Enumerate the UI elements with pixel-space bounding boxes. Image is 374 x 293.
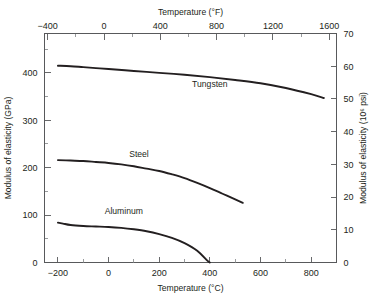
top-tick-label: 400 xyxy=(153,21,168,31)
left-axis-title: Modulus of elasticity (GPa) xyxy=(3,97,13,200)
left-tick-label: 100 xyxy=(22,210,37,220)
right-tick-label: 30 xyxy=(344,160,354,170)
top-tick-label: 800 xyxy=(209,21,224,31)
series-label-steel: Steel xyxy=(129,149,149,159)
modulus-vs-temperature-chart: −2000200400600800−4000400800120016000100… xyxy=(0,0,374,293)
top-tick-label: 1200 xyxy=(263,21,283,31)
series-label-aluminum: Aluminum xyxy=(105,206,143,216)
left-tick-label: 200 xyxy=(22,163,37,173)
top-axis-title: Temperature (°F) xyxy=(158,7,223,17)
bottom-axis-title: Temperature (°C) xyxy=(158,283,224,293)
right-tick-label: 40 xyxy=(344,127,354,137)
right-tick-label: 10 xyxy=(344,225,354,235)
axis-tick-labels: −2000200400600800−4000400800120016000100… xyxy=(22,21,353,278)
left-tick-label: 400 xyxy=(22,68,37,78)
top-tick-label: 1600 xyxy=(319,21,339,31)
left-tick-label: 0 xyxy=(32,258,37,268)
series-label-tungsten: Tungsten xyxy=(192,79,228,89)
bottom-tick-label: 600 xyxy=(253,268,268,278)
right-tick-label: 0 xyxy=(344,258,349,268)
series-labels: TungstenSteelAluminum xyxy=(105,79,228,216)
curve-tungsten xyxy=(58,66,324,98)
right-axis-title: Modulus of elasticity (10⁶ psi) xyxy=(358,92,368,204)
data-curves xyxy=(58,66,324,263)
top-tick-label: −400 xyxy=(38,21,58,31)
bottom-tick-label: 800 xyxy=(304,268,319,278)
right-tick-label: 50 xyxy=(344,94,354,104)
left-tick-label: 300 xyxy=(22,116,37,126)
top-tick-label: 0 xyxy=(102,21,107,31)
curve-aluminum xyxy=(58,223,210,263)
bottom-tick-label: −200 xyxy=(48,268,68,278)
bottom-tick-label: 0 xyxy=(106,268,111,278)
right-tick-label: 60 xyxy=(344,62,354,72)
bottom-tick-label: 400 xyxy=(202,268,217,278)
curve-steel xyxy=(58,160,243,203)
right-tick-label: 20 xyxy=(344,192,354,202)
bottom-tick-label: 200 xyxy=(152,268,167,278)
right-tick-label: 70 xyxy=(344,29,354,39)
chart-svg: −2000200400600800−4000400800120016000100… xyxy=(0,0,374,293)
